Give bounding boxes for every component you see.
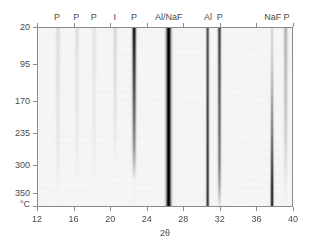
y-tick-label: 350 [0, 189, 30, 198]
x-tick-label: 12 [22, 215, 52, 224]
x-tick-label: 20 [95, 215, 125, 224]
x-tick-mark-top [293, 23, 294, 27]
y-tick-label: 95 [0, 60, 30, 69]
x-tick-mark [293, 207, 294, 211]
x-tick-mark [110, 207, 111, 211]
x-tick-label: 32 [205, 215, 235, 224]
plot-area [37, 27, 293, 207]
phase-label-p: P [267, 13, 307, 22]
x-tick-label: 16 [59, 215, 89, 224]
x-tick-mark-top [147, 23, 148, 27]
y-tick-label: 235 [0, 129, 30, 138]
x-tick-label: 24 [132, 215, 162, 224]
x-tick-mark [183, 207, 184, 211]
x-tick-mark-top [256, 23, 257, 27]
x-tick-mark-top [74, 23, 75, 27]
x-tick-mark [74, 207, 75, 211]
phase-label-p: P [200, 13, 240, 22]
y-tick-label: 170 [0, 97, 30, 106]
x-tick-mark-top [220, 23, 221, 27]
x-tick-mark-top [110, 23, 111, 27]
x-tick-mark [256, 207, 257, 211]
xrd-heatmap [38, 28, 292, 206]
phase-label-al-naf: Al/NaF [149, 13, 189, 22]
x-tick-mark [220, 207, 221, 211]
y-tick-label: 20 [0, 23, 30, 32]
x-axis-title: 2θ [125, 228, 205, 238]
x-tick-label: 40 [278, 215, 308, 224]
y-tick-label: 300 [0, 161, 30, 170]
x-tick-mark-top [183, 23, 184, 27]
y-axis-unit-label: °C [0, 199, 30, 209]
x-tick-mark [37, 207, 38, 211]
x-tick-mark-top [37, 23, 38, 27]
xrd-contour-figure: 2095170235300350 °C PPPIPAl/NaFAlPNaFP 1… [0, 0, 311, 247]
x-tick-label: 28 [168, 215, 198, 224]
x-tick-mark [147, 207, 148, 211]
x-tick-label: 36 [241, 215, 271, 224]
